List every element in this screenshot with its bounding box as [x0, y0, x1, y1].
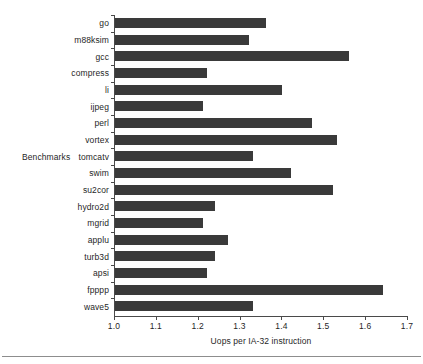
x-axis-tick	[323, 316, 324, 320]
footer-divider	[2, 356, 421, 357]
bar-row: apsi	[114, 265, 407, 282]
bar-category-label: compress	[71, 68, 109, 78]
x-axis-tick	[198, 316, 199, 320]
bar	[115, 135, 337, 145]
bar-category-label: vortex	[85, 135, 109, 145]
bar-row: wave5	[114, 298, 407, 315]
bar-row: ijpeg	[114, 98, 407, 115]
x-axis-tick-label: 1.2	[191, 321, 203, 331]
x-axis-tick-label: 1.3	[233, 321, 245, 331]
bar-category-label: go	[99, 18, 109, 28]
x-axis-tick-label: 1.7	[401, 321, 413, 331]
x-axis-tick	[240, 316, 241, 320]
bar	[115, 18, 266, 28]
bar-row: m88ksim	[114, 32, 407, 49]
bar-category-label: perl	[94, 118, 109, 128]
y-axis-tick	[111, 182, 114, 183]
bar-row: perl	[114, 115, 407, 132]
bar	[115, 101, 203, 111]
y-axis-tick	[111, 298, 114, 299]
x-axis-tick	[281, 316, 282, 320]
bar	[115, 68, 207, 78]
bar-row: hydro2d	[114, 198, 407, 215]
bar-category-label: hydro2d	[78, 202, 109, 212]
y-axis-tick	[111, 82, 114, 83]
bar	[115, 268, 207, 278]
bar-category-label: swim	[89, 168, 109, 178]
bar	[115, 35, 249, 45]
bar-category-label: wave5	[84, 302, 109, 312]
bar-category-label: tomcatv	[79, 152, 109, 162]
bar-row: tomcatv	[114, 148, 407, 165]
x-axis-tick-label: 1.1	[150, 321, 162, 331]
y-axis-tick	[111, 265, 114, 266]
bar-category-label: gcc	[95, 52, 109, 62]
bar	[115, 301, 253, 311]
bar-category-label: fpppp	[87, 285, 109, 295]
y-axis-tick	[111, 115, 114, 116]
bar	[115, 185, 333, 195]
x-axis-tick	[407, 316, 408, 320]
bar-row: li	[114, 82, 407, 99]
plot-area: gom88ksimgcccompressliijpegperlvortextom…	[114, 15, 407, 315]
x-axis-line	[114, 316, 408, 317]
bar-category-label: mgrid	[87, 218, 109, 228]
x-axis-title: Uops per IA-32 instruction	[114, 336, 408, 346]
bar	[115, 285, 383, 295]
bar	[115, 168, 291, 178]
chart-figure: Benchmarks gom88ksimgcccompressliijpegpe…	[0, 0, 423, 364]
y-axis-tick	[111, 198, 114, 199]
x-axis-tick-label: 1.4	[275, 321, 287, 331]
bar	[115, 51, 349, 61]
bar-row: compress	[114, 65, 407, 82]
y-axis-tick	[111, 32, 114, 33]
bar	[115, 235, 228, 245]
y-axis-tick	[111, 165, 114, 166]
y-axis-tick	[111, 132, 114, 133]
bar-row: fpppp	[114, 282, 407, 299]
x-axis-tick-label: 1.5	[317, 321, 329, 331]
y-axis-tick	[111, 48, 114, 49]
y-axis-tick	[111, 215, 114, 216]
bar	[115, 151, 253, 161]
bar-row: mgrid	[114, 215, 407, 232]
bar-row: vortex	[114, 132, 407, 149]
y-axis-tick	[111, 98, 114, 99]
y-axis-tick	[111, 148, 114, 149]
bar-category-label: applu	[88, 235, 109, 245]
x-axis-tick	[156, 316, 157, 320]
bar-row: applu	[114, 232, 407, 249]
bar-row: turb3d	[114, 248, 407, 265]
x-axis-tick-label: 1.0	[108, 321, 120, 331]
bar	[115, 251, 215, 261]
bar-category-label: li	[105, 85, 109, 95]
bar-category-label: m88ksim	[74, 35, 109, 45]
bar-row: su2cor	[114, 182, 407, 199]
bar-row: gcc	[114, 48, 407, 65]
y-axis-tick	[111, 282, 114, 283]
bar	[115, 118, 312, 128]
bar	[115, 218, 203, 228]
bar	[115, 201, 215, 211]
bar-category-label: su2cor	[83, 185, 109, 195]
y-axis-tick	[111, 232, 114, 233]
bar-category-label: apsi	[93, 268, 109, 278]
bar-category-label: turb3d	[84, 252, 109, 262]
x-axis-tick	[114, 316, 115, 320]
y-axis-tick	[111, 65, 114, 66]
y-axis-tick	[111, 15, 114, 16]
bar-category-label: ijpeg	[91, 102, 109, 112]
bar	[115, 85, 282, 95]
bar-row: swim	[114, 165, 407, 182]
y-axis-tick	[111, 248, 114, 249]
bar-row: go	[114, 15, 407, 32]
x-axis-tick	[365, 316, 366, 320]
x-axis-tick-label: 1.6	[359, 321, 371, 331]
